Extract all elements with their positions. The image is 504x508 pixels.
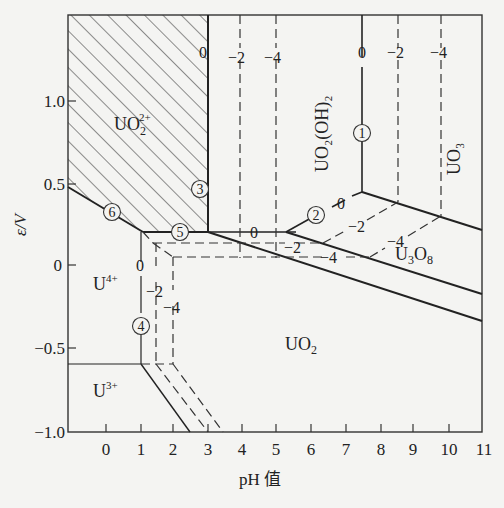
region-label-u3plus: U3+ — [93, 379, 118, 401]
svg-text:8: 8 — [377, 440, 386, 459]
svg-text:1: 1 — [137, 440, 146, 459]
svg-text:5: 5 — [272, 440, 281, 459]
svg-text:5: 5 — [177, 225, 184, 240]
svg-text:−1.0: −1.0 — [34, 423, 65, 442]
svg-text:0: 0 — [54, 256, 63, 275]
svg-text:−2: −2 — [284, 239, 301, 256]
x-axis-title: pH 值 — [239, 470, 281, 489]
svg-text:−0.5: −0.5 — [34, 339, 65, 358]
svg-text:6: 6 — [109, 205, 116, 220]
svg-text:7: 7 — [342, 440, 351, 459]
region-label-uo2oh2: UO₂(OH)₂ — [312, 95, 333, 172]
svg-text:4: 4 — [138, 319, 145, 334]
svg-text:11: 11 — [476, 440, 492, 459]
svg-text:2: 2 — [169, 440, 178, 459]
region-label-u3o8: U3O8 — [395, 244, 433, 267]
svg-text:9: 9 — [409, 440, 418, 459]
region-label-uo2: UO2 — [285, 334, 317, 357]
svg-text:0: 0 — [358, 44, 366, 61]
svg-text:3: 3 — [197, 182, 204, 197]
svg-text:−2: −2 — [387, 44, 404, 61]
x-axis — [106, 424, 449, 432]
y-tick-labels: 1.0 0.5 0 −0.5 −1.0 — [34, 92, 65, 442]
marker-2: 2 — [308, 207, 325, 224]
region-label-uo3: UO₃ — [444, 143, 464, 175]
svg-text:1: 1 — [359, 126, 366, 141]
svg-text:0: 0 — [337, 195, 345, 212]
marker-5: 5 — [172, 224, 189, 241]
svg-text:4: 4 — [238, 440, 247, 459]
svg-text:0: 0 — [250, 224, 258, 241]
svg-text:1.0: 1.0 — [44, 92, 65, 111]
svg-text:0: 0 — [199, 44, 207, 61]
svg-text:−4: −4 — [163, 299, 180, 316]
svg-text:−4: −4 — [430, 44, 447, 61]
svg-text:2: 2 — [313, 208, 320, 223]
marker-1: 1 — [354, 125, 371, 142]
svg-text:−2: −2 — [348, 218, 365, 235]
region-label-u4plus: U4+ — [93, 272, 118, 294]
svg-text:0.5: 0.5 — [44, 175, 65, 194]
marker-4: 4 — [133, 318, 150, 335]
svg-text:6: 6 — [307, 440, 316, 459]
y-axis-title: ε/V — [11, 211, 30, 235]
svg-text:0: 0 — [136, 257, 144, 274]
svg-text:−4: −4 — [264, 49, 281, 66]
region-label-uo2-2plus: UO22+ — [114, 111, 151, 138]
svg-text:−4: −4 — [320, 249, 337, 266]
x-tick-labels: 0 1 2 3 4 5 6 7 8 9 10 11 — [102, 440, 492, 459]
marker-3: 3 — [192, 181, 209, 198]
svg-text:−2: −2 — [146, 283, 163, 300]
svg-text:−2: −2 — [228, 49, 245, 66]
svg-text:10: 10 — [441, 440, 458, 459]
svg-text:0: 0 — [102, 440, 111, 459]
pourbaix-diagram: 1 2 3 4 5 6 0 −2 −4 0 −2 −4 0 −2 −4 0 −2… — [0, 0, 504, 508]
marker-6: 6 — [104, 204, 121, 221]
svg-text:3: 3 — [204, 440, 213, 459]
